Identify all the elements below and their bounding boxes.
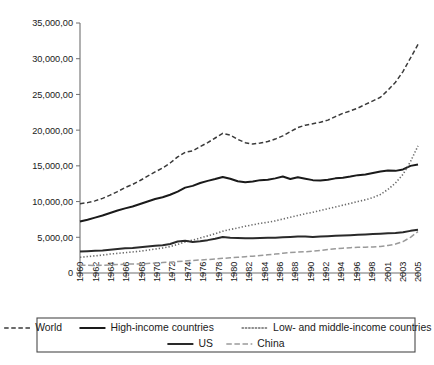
- legend-label-high-income-countries: High-income countries: [110, 322, 213, 333]
- y-axis-tick-label: 10,000,00: [32, 197, 73, 207]
- x-axis-tick-label: 1982: [244, 262, 254, 282]
- x-axis-tick-label: 1978: [214, 262, 224, 282]
- x-axis-tick-label: 1998: [367, 262, 377, 282]
- series-line-low-and-middle-income-countries: [80, 146, 418, 257]
- x-axis-tick-label: 1990: [306, 262, 316, 282]
- series-line-us: [80, 230, 418, 252]
- y-axis-tick-label: 0: [68, 268, 73, 278]
- x-axis-tick-label: 2001: [383, 262, 393, 282]
- y-axis-tick-label: 25,000,00: [32, 90, 73, 100]
- legend-label-low-and-middle-income-countries: Low- and middle-income countries: [273, 322, 431, 333]
- x-axis-tick-label: 1986: [275, 262, 285, 282]
- legend-label-world: World: [35, 322, 62, 333]
- x-axis-tick-label: 1972: [167, 262, 177, 282]
- x-axis-tick-label: 1974: [183, 262, 193, 282]
- series-line-world: [80, 44, 418, 203]
- x-axis-tick-label: 2003: [398, 262, 408, 282]
- line-chart: 05,000,0010,000,0015,000,0020,000,0025,0…: [0, 0, 434, 365]
- x-axis-tick-label: 1988: [290, 262, 300, 282]
- x-axis-tick-label: 1984: [260, 262, 270, 282]
- series-lines: [80, 44, 418, 265]
- x-axis-tick-label: 1970: [152, 262, 162, 282]
- x-axis-tick-label: 1992: [321, 262, 331, 282]
- y-axis-tick-label: 35,000,00: [32, 18, 73, 28]
- chart-figure: 05,000,0010,000,0015,000,0020,000,0025,0…: [0, 0, 434, 365]
- x-axis-tick-label: 1996: [352, 262, 362, 282]
- chart-legend: WorldHigh-income countriesLow- and middl…: [4, 318, 431, 352]
- series-line-high-income-countries: [80, 164, 418, 221]
- x-axis: 1960196219641966196819701972197419761978…: [75, 262, 423, 282]
- x-axis-tick-label: 1962: [91, 262, 101, 282]
- y-axis-tick-label: 20,000,00: [32, 126, 73, 136]
- legend-label-china: China: [257, 338, 284, 349]
- y-axis-tick-label: 15,000,00: [32, 161, 73, 171]
- x-axis-tick-label: 1994: [336, 262, 346, 282]
- legend-label-us: US: [198, 338, 213, 349]
- y-axis-tick-label: 30,000,00: [32, 54, 73, 64]
- x-axis-tick-label: 1980: [229, 262, 239, 282]
- y-axis-tick-label: 5,000,00: [37, 233, 73, 243]
- y-axis: 05,000,0010,000,0015,000,0020,000,0025,0…: [32, 18, 80, 278]
- x-axis-tick-label: 1976: [198, 262, 208, 282]
- x-axis-tick-label: 2005: [413, 262, 423, 282]
